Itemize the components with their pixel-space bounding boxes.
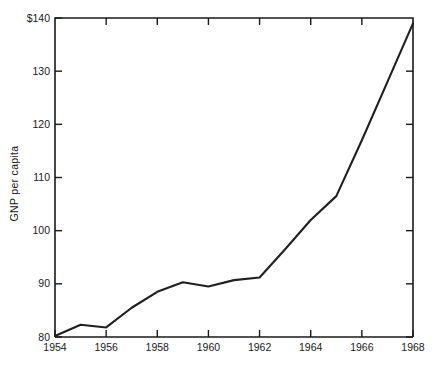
y-tick-label: 90 xyxy=(38,277,50,289)
x-tick-label: 1966 xyxy=(350,341,374,353)
y-axis-title: GNP per capita xyxy=(8,146,20,222)
y-tick-label: 130 xyxy=(32,65,50,77)
y-tick-label: 120 xyxy=(32,118,50,130)
chart-figure: 8090100110120130$14019541956195819601962… xyxy=(0,0,437,366)
chart-background xyxy=(0,0,437,366)
x-tick-label: 1960 xyxy=(197,341,221,353)
x-tick-label: 1968 xyxy=(401,341,425,353)
x-tick-label: 1958 xyxy=(146,341,170,353)
x-tick-label: 1962 xyxy=(248,341,272,353)
y-tick-label: 100 xyxy=(32,224,50,236)
y-tick-label: $140 xyxy=(27,12,51,24)
x-tick-label: 1954 xyxy=(43,341,67,353)
x-tick-label: 1964 xyxy=(299,341,323,353)
y-tick-label: 110 xyxy=(33,171,50,183)
gnp-per-capita-line-chart: 8090100110120130$14019541956195819601962… xyxy=(0,0,437,366)
y-axis-label: GNP per capita xyxy=(8,146,20,222)
x-tick-label: 1956 xyxy=(94,341,118,353)
